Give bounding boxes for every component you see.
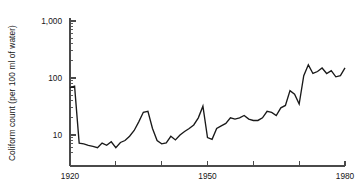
chart-svg	[0, 0, 355, 196]
x-tick-label: 1980	[325, 171, 355, 181]
y-tick-label: 100	[22, 73, 62, 83]
y-tick-label: 10	[22, 130, 62, 140]
x-tick-label: 1920	[50, 171, 90, 181]
y-tick-label: 1,000	[22, 16, 62, 26]
x-tick-label: 1950	[188, 171, 228, 181]
data-series-line	[70, 65, 345, 148]
axes	[70, 18, 345, 166]
plot-area: 1,00010010 192019501980	[0, 0, 355, 196]
x-axis-ticks	[70, 161, 345, 166]
chart-figure: Coliform count (per 100 ml of water) 1,0…	[0, 0, 355, 196]
